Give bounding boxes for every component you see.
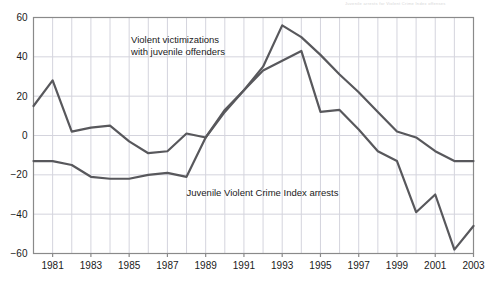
x-axis-tick-label: 2003 [462,260,485,271]
x-axis-tick-label: 1993 [271,260,294,271]
y-axis-tick-label: 40 [16,51,28,62]
series-line [34,51,474,250]
y-axis-tick-label: −20 [11,169,28,180]
line-chart: 6040200−20−40−60 19811983198519871989199… [0,0,487,281]
chart-figure: Juvenile arrests for Violent Crime Index… [0,0,487,281]
x-axis-tick-label: 1991 [233,260,256,271]
series-line [34,25,474,161]
x-axis-tick-label: 1999 [386,260,409,271]
x-axis-tick-label: 1997 [348,260,371,271]
x-axis-tick-labels: 1981198319851987198919911993199519971999… [42,260,486,271]
x-axis-tick-label: 1983 [80,260,103,271]
x-axis-tick-label: 2001 [424,260,447,271]
y-axis-tick-label: −40 [11,209,28,220]
y-axis-tick-label: −60 [11,248,28,259]
x-axis-tick-label: 1985 [118,260,141,271]
x-axis-tick-label: 1981 [42,260,65,271]
y-axis-tick-label: 20 [16,91,28,102]
y-axis-tick-labels: 6040200−20−40−60 [11,12,28,259]
x-axis-tick-label: 1987 [156,260,179,271]
plot-frame [34,18,474,258]
y-axis-tick-label: 60 [16,12,28,23]
annotation-arrests-label: Juvenile Violent Crime Index arrests [187,187,339,198]
x-axis-tick-label: 1989 [195,260,218,271]
y-axis-tick-label: 0 [22,130,28,141]
data-series-layer [34,25,474,249]
x-axis-tick-label: 1995 [309,260,332,271]
annotation-victimizations-label: Violent victimizationswith juvenile offe… [130,34,225,57]
